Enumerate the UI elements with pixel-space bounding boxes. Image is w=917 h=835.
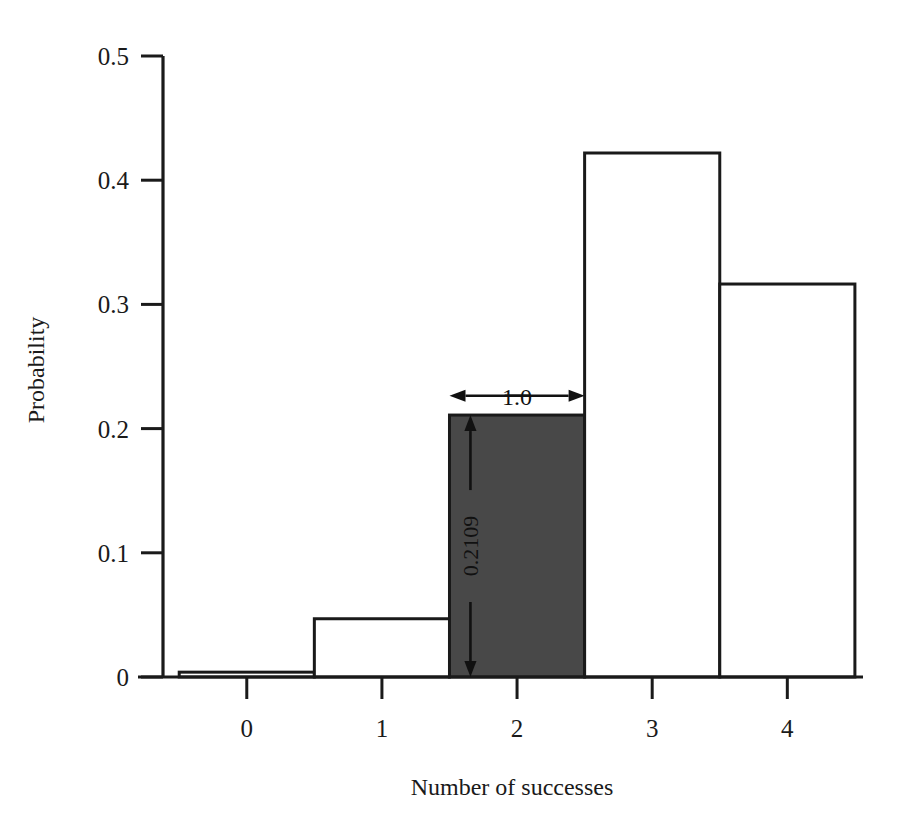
bar bbox=[585, 153, 720, 677]
bar bbox=[720, 284, 855, 677]
annotation-height-label: 0.2109 bbox=[458, 516, 483, 577]
bars-group bbox=[179, 153, 855, 677]
x-tick-labels: 01234 bbox=[241, 715, 795, 742]
y-tick-label: 0.5 bbox=[98, 43, 129, 70]
chart-container: 00.10.20.30.40.5 01234 1.00.2109 Probabi… bbox=[0, 0, 917, 835]
y-axis-title: Probability bbox=[23, 317, 49, 424]
y-tick-label: 0.3 bbox=[98, 291, 129, 318]
y-tick-labels: 00.10.20.30.40.5 bbox=[98, 43, 130, 691]
y-tick-label: 0 bbox=[117, 664, 130, 691]
x-tick-label: 1 bbox=[376, 715, 389, 742]
y-tick-label: 0.2 bbox=[98, 416, 129, 443]
arrow-head bbox=[569, 390, 585, 402]
y-tick-label: 0.1 bbox=[98, 540, 129, 567]
x-tick-label: 3 bbox=[646, 715, 659, 742]
x-tick-label: 4 bbox=[781, 715, 794, 742]
y-tick-marks bbox=[141, 56, 163, 677]
x-tick-label: 0 bbox=[241, 715, 254, 742]
annotation-width-label: 1.0 bbox=[502, 384, 532, 410]
y-tick-label: 0.4 bbox=[98, 167, 130, 194]
x-tick-marks bbox=[247, 677, 788, 699]
bar bbox=[314, 619, 449, 677]
x-tick-label: 2 bbox=[511, 715, 524, 742]
x-axis-title: Number of successes bbox=[411, 774, 614, 800]
binomial-probability-histogram: 00.10.20.30.40.5 01234 1.00.2109 Probabi… bbox=[0, 0, 917, 835]
arrow-head bbox=[449, 390, 465, 402]
